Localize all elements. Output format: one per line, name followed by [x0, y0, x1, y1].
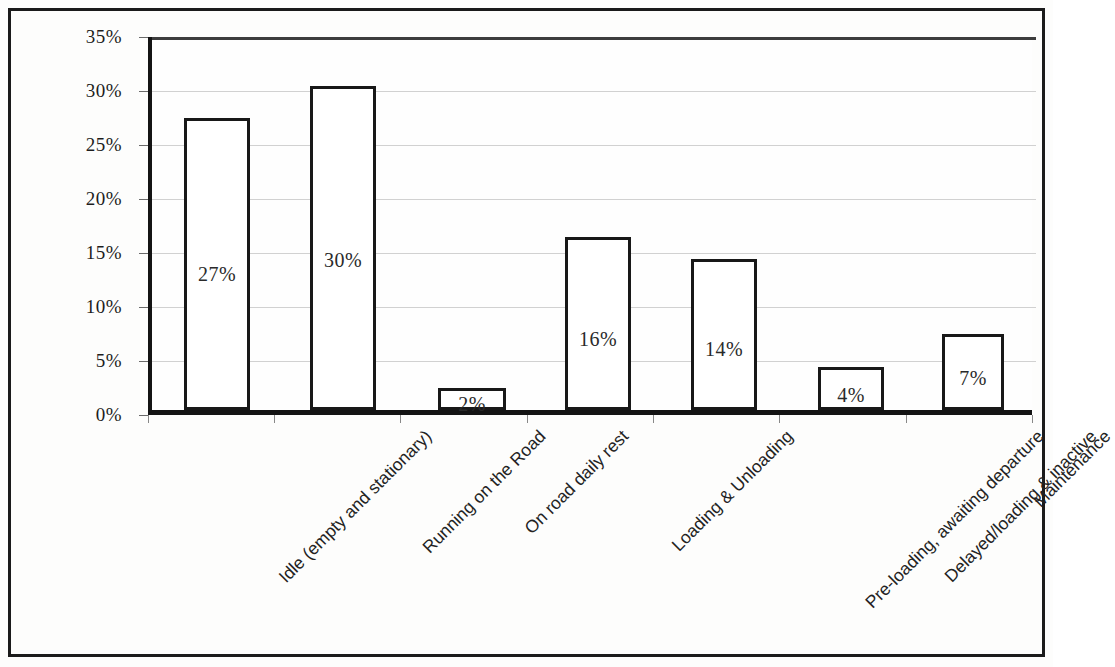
- bar-value-label: 16%: [568, 328, 628, 351]
- y-tick-label: 15%: [86, 242, 122, 264]
- y-tick-label: 10%: [86, 296, 122, 318]
- y-axis: 35% 30% 25% 20% 15% 10% 5% 0%: [0, 37, 140, 415]
- y-tick-label: 0%: [96, 404, 122, 426]
- bar[interactable]: 27%: [184, 118, 250, 410]
- bar-value-label: 14%: [694, 338, 754, 361]
- x-tick-mark: [906, 415, 907, 423]
- bar[interactable]: 30%: [310, 86, 376, 410]
- x-tick-mark: [1032, 415, 1033, 423]
- y-tick-label: 20%: [86, 188, 122, 210]
- gridline: [152, 199, 1036, 200]
- y-tick-mark: [139, 253, 148, 254]
- x-tick-mark: [400, 415, 401, 423]
- bar[interactable]: 4%: [818, 367, 884, 410]
- y-tick-label: 5%: [96, 350, 122, 372]
- x-tick-mark: [653, 415, 654, 423]
- x-tick-mark: [779, 415, 780, 423]
- x-tick-mark: [527, 415, 528, 423]
- bar-value-label: 7%: [945, 367, 1001, 390]
- plot-top-border: [152, 37, 1036, 40]
- plot-area: 27% 30% 2% 16% 14% 4% 7%: [148, 37, 1032, 415]
- bar-value-label: 4%: [821, 384, 881, 407]
- y-tick-mark: [139, 91, 148, 92]
- x-tick-mark: [274, 415, 275, 423]
- bar[interactable]: 14%: [691, 259, 757, 410]
- bar-value-label: 27%: [187, 263, 247, 286]
- y-tick-mark: [139, 199, 148, 200]
- bar-value-label: 30%: [313, 249, 373, 272]
- y-tick-mark: [139, 37, 148, 38]
- y-tick-mark: [139, 307, 148, 308]
- gridline: [152, 91, 1036, 92]
- y-tick-mark: [139, 415, 148, 416]
- y-tick-mark: [139, 145, 148, 146]
- y-tick-label: 30%: [86, 80, 122, 102]
- gridline: [152, 145, 1036, 146]
- bar[interactable]: 2%: [438, 388, 506, 410]
- y-tick-label: 25%: [86, 134, 122, 156]
- y-tick-mark: [139, 361, 148, 362]
- bar[interactable]: 16%: [565, 237, 631, 410]
- bar-value-label: 2%: [441, 393, 503, 416]
- y-tick-label: 35%: [86, 26, 122, 48]
- bar[interactable]: 7%: [942, 334, 1004, 410]
- x-tick-mark: [148, 415, 149, 423]
